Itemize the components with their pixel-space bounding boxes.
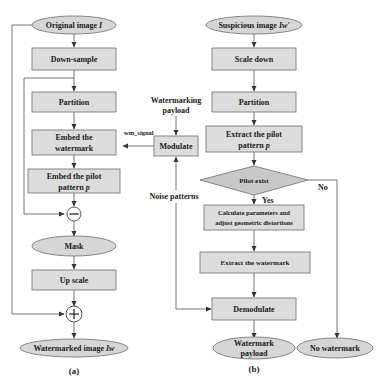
yes-label: Yes [262, 196, 274, 205]
node-mask: Mask [32, 236, 116, 256]
svg-text:Original image I: Original image I [46, 21, 103, 30]
node-watermarked-image: Watermarked image Iw [20, 339, 128, 357]
node-embed-watermark: Embed the watermark [32, 130, 116, 155]
svg-text:Extract the pilot: Extract the pilot [226, 130, 282, 139]
svg-text:Embed the pilot: Embed the pilot [47, 172, 102, 181]
node-extract-pilot-pattern: Extract the pilot pattern p [206, 126, 302, 152]
svg-text:Partition: Partition [59, 98, 90, 107]
svg-text:Down-sample: Down-sample [51, 55, 98, 64]
node-partition-a: Partition [32, 92, 116, 112]
no-label: No [318, 183, 328, 192]
svg-text:Demodulate: Demodulate [233, 305, 275, 314]
noise-patterns-label: Noise patterns [149, 192, 198, 201]
svg-text:watermark: watermark [55, 144, 94, 153]
svg-text:Partition: Partition [239, 98, 270, 107]
watermarking-flowchart: Original image I Down-sample Partition E… [0, 0, 384, 390]
svg-text:No watermark: No watermark [310, 344, 361, 353]
modulation-section: Watermarking payload Modulate wm_signal … [123, 96, 211, 309]
svg-text:Up scale: Up scale [60, 276, 89, 285]
svg-text:Watermark: Watermark [234, 339, 275, 348]
svg-text:Mask: Mask [64, 242, 84, 251]
svg-text:Extract the watermark: Extract the watermark [221, 259, 290, 267]
svg-text:pattern p: pattern p [58, 183, 89, 192]
svg-text:Pilot exist: Pilot exist [239, 177, 269, 185]
node-partition-b: Partition [212, 92, 296, 112]
svg-text:Calculate parameters and: Calculate parameters and [218, 209, 290, 216]
watermarking-payload-label: Watermarking [151, 96, 202, 105]
svg-text:Scale down: Scale down [235, 55, 274, 64]
wm-signal-label: wm_signal [124, 129, 154, 136]
node-up-scale: Up scale [32, 270, 116, 290]
plus-operator-icon [66, 306, 82, 322]
svg-text:payload: payload [240, 349, 268, 358]
node-calculate-parameters: Calculate parameters and adjust geometri… [204, 205, 304, 230]
svg-text:Modulate: Modulate [160, 142, 193, 151]
watermarking-payload-label-2: payload [162, 106, 190, 115]
node-watermark-payload: Watermark payload [213, 337, 295, 359]
node-demodulate: Demodulate [212, 298, 296, 320]
node-scale-down: Scale down [212, 48, 296, 70]
svg-text:Embed the: Embed the [55, 133, 93, 142]
diagram-b: Suspicious image Iw' Scale down Partitio… [200, 16, 373, 374]
node-extract-watermark: Extract the watermark [200, 252, 310, 273]
node-down-sample: Down-sample [32, 48, 116, 70]
svg-text:pattern p: pattern p [238, 141, 269, 150]
svg-text:Suspicious image Iw': Suspicious image Iw' [218, 21, 290, 30]
minus-operator-icon [67, 207, 81, 221]
node-suspicious-image: Suspicious image Iw' [206, 16, 302, 34]
caption-a: (a) [69, 366, 80, 376]
node-embed-pilot-pattern: Embed the pilot pattern p [28, 169, 120, 193]
svg-text:Watermarked image Iw: Watermarked image Iw [34, 344, 116, 353]
node-original-image: Original image I [32, 16, 116, 34]
svg-text:adjust geometric distortions: adjust geometric distortions [215, 219, 293, 226]
node-no-watermark: No watermark [297, 338, 373, 358]
caption-b: (b) [249, 364, 260, 374]
arrow-no-branch [308, 180, 337, 338]
node-pilot-exist-decision: Pilot exist [200, 166, 308, 195]
node-modulate: Modulate [154, 136, 198, 156]
diagram-a: Original image I Down-sample Partition E… [12, 16, 128, 376]
